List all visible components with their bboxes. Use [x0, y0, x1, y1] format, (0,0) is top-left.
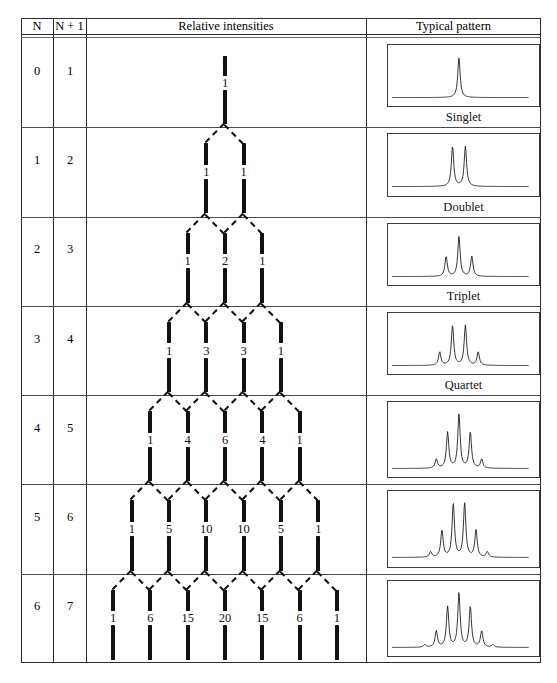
intensity-coefficient: 10 — [191, 523, 221, 535]
intensity-bar-lower — [223, 268, 227, 303]
intensity-bar-lower — [242, 179, 246, 214]
intensity-coefficient: 6 — [135, 612, 165, 624]
intensity-bar-upper — [335, 590, 339, 612]
splitting-connector — [186, 481, 206, 501]
intensity-coefficient: 4 — [173, 434, 203, 446]
intensity-coefficient: 1 — [191, 166, 221, 178]
splitting-connector — [242, 480, 262, 500]
pattern-name-label: Triplet — [387, 289, 540, 304]
intensity-coefficient: 1 — [229, 166, 259, 178]
intensity-bar-lower — [186, 447, 190, 482]
intensity-bar-lower — [242, 536, 246, 571]
intensity-bar-upper — [223, 56, 227, 76]
spectrum-plot — [387, 44, 540, 107]
column-rule-intensities — [366, 18, 367, 663]
splitting-connector — [149, 391, 169, 411]
spectrum-plot — [387, 401, 540, 478]
splitting-connector — [261, 481, 281, 501]
splitting-connector — [205, 571, 225, 591]
intensity-bar-lower — [111, 625, 115, 660]
cell-n-plus-1-value: 5 — [54, 421, 86, 436]
intensity-bar-lower — [298, 447, 302, 482]
cell-n-plus-1-value: 3 — [54, 242, 86, 257]
splitting-connector — [205, 301, 225, 321]
intensity-coefficient: 3 — [191, 345, 221, 357]
intensity-bar-lower — [204, 179, 208, 214]
intensity-coefficient: 2 — [210, 255, 240, 267]
intensity-bar-lower — [223, 625, 227, 660]
intensity-coefficient: 1 — [210, 77, 240, 89]
splitting-connector — [168, 301, 188, 321]
cell-n-value: 1 — [21, 153, 53, 168]
pascal-triangle: 111121133114641151010511615201561 — [86, 38, 366, 663]
intensity-bar-upper — [298, 590, 302, 612]
intensity-bar-lower — [204, 536, 208, 571]
splitting-connector — [130, 571, 150, 591]
intensity-bar-upper — [148, 590, 152, 612]
intensity-bar-lower — [223, 90, 227, 125]
splitting-connector — [280, 480, 300, 500]
intensity-coefficient: 20 — [210, 612, 240, 624]
intensity-bar-upper — [186, 411, 190, 433]
intensity-bar-upper — [279, 322, 283, 344]
intensity-bar-lower — [167, 358, 171, 393]
splitting-connector — [279, 571, 299, 591]
splitting-connector — [149, 481, 169, 501]
intensity-bar-lower — [186, 268, 190, 303]
splitting-connector — [298, 481, 318, 501]
cell-n-plus-1-value: 6 — [54, 510, 86, 525]
column-header-n-plus-1: N + 1 — [53, 18, 86, 35]
spectrum-plot — [387, 490, 540, 567]
intensity-bar-lower — [242, 358, 246, 393]
splitting-connector — [242, 214, 262, 234]
intensity-bar-lower — [186, 625, 190, 660]
cell-n-value: 2 — [21, 242, 53, 257]
column-header-intensities: Relative intensities — [86, 18, 366, 35]
intensity-bar-upper — [260, 233, 264, 255]
intensity-bar-upper — [260, 411, 264, 433]
intensity-bar-upper — [242, 322, 246, 344]
intensity-coefficient: 10 — [229, 523, 259, 535]
splitting-table-figure: N N + 1 Relative intensities Typical pat… — [0, 0, 557, 683]
intensity-bar-upper — [242, 143, 246, 165]
splitting-connector — [224, 481, 244, 501]
pattern-name-label: Singlet — [387, 110, 540, 125]
column-header-pattern: Typical pattern — [366, 18, 541, 35]
intensity-coefficient: 1 — [154, 345, 184, 357]
intensity-bar-upper — [316, 500, 320, 522]
pattern-name-label: Doublet — [387, 200, 540, 215]
intensity-coefficient: 1 — [173, 255, 203, 267]
splitting-connector — [112, 569, 132, 589]
cell-n-value: 5 — [21, 510, 53, 525]
splitting-connector — [186, 303, 206, 323]
splitting-connector — [168, 392, 188, 412]
splitting-connector — [205, 392, 225, 412]
intensity-bar-lower — [260, 447, 264, 482]
intensity-bar-lower — [298, 625, 302, 660]
intensity-bar-lower — [316, 536, 320, 571]
intensity-bar-lower — [279, 358, 283, 393]
splitting-connector — [224, 391, 244, 411]
intensity-coefficient: 5 — [266, 523, 296, 535]
cell-n-value: 0 — [21, 64, 53, 79]
spectrum-plot — [387, 133, 540, 196]
intensity-bar-upper — [148, 411, 152, 433]
splitting-connector — [149, 569, 169, 589]
splitting-connector — [186, 212, 206, 232]
intensity-coefficient: 4 — [247, 434, 277, 446]
intensity-bar-upper — [204, 143, 208, 165]
cell-n-value: 6 — [21, 599, 53, 614]
splitting-connector — [279, 392, 299, 412]
intensity-bar-lower — [223, 447, 227, 482]
intensity-bar-upper — [279, 500, 283, 522]
intensity-coefficient: 6 — [210, 434, 240, 446]
splitting-connector — [205, 480, 225, 500]
splitting-connector — [205, 123, 225, 143]
splitting-connector — [242, 301, 262, 321]
splitting-connector — [261, 391, 281, 411]
intensity-coefficient: 1 — [98, 612, 128, 624]
splitting-connector — [224, 212, 244, 232]
intensity-bar-lower — [335, 625, 339, 660]
intensity-bar-upper — [223, 590, 227, 612]
intensity-bar-upper — [186, 590, 190, 612]
